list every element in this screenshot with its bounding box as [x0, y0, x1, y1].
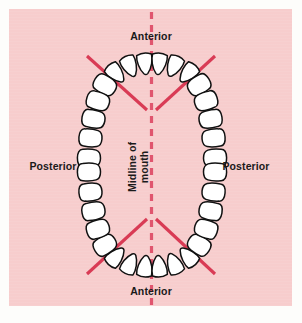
- tooth-lower-left-central-incisor: [136, 255, 153, 278]
- tooth-upper-left-central-incisor: [136, 52, 153, 75]
- tooth-lower-left-third-molar: [77, 163, 100, 181]
- tooth-lower-right-central-incisor: [150, 255, 167, 278]
- label-anterior-bottom: Anterior: [130, 286, 172, 298]
- label-midline-line-1: Midline of: [126, 142, 138, 192]
- tooth-upper-right-central-incisor: [150, 52, 167, 75]
- figure-canvas: Anterior Anterior Posterior Posterior Mi…: [0, 0, 302, 323]
- label-midline-line-2: mouth: [138, 151, 150, 184]
- label-anterior-top: Anterior: [130, 31, 172, 43]
- label-posterior-right: Posterior: [223, 161, 270, 173]
- tooth-upper-left-second-molar: [78, 128, 103, 148]
- tooth-lower-left-second-molar: [78, 182, 103, 202]
- tooth-lower-right-second-molar: [201, 182, 226, 202]
- label-posterior-left: Posterior: [30, 161, 77, 173]
- tooth-upper-right-second-molar: [201, 128, 226, 148]
- label-midline-of-mouth: Midline of mouth: [127, 142, 151, 192]
